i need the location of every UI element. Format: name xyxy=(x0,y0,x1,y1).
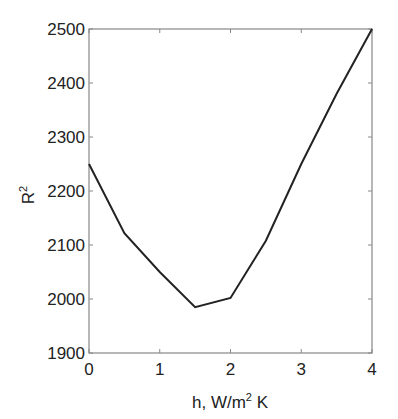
y-tick-label: 2000 xyxy=(47,290,85,309)
y-tick-label: 2300 xyxy=(47,128,85,147)
y-axis-label: R2 xyxy=(17,186,38,204)
x-tick-label: 3 xyxy=(297,360,306,379)
y-tick-label: 2100 xyxy=(47,236,85,255)
y-tick-label: 2500 xyxy=(47,20,85,39)
x-tick-label: 1 xyxy=(155,360,164,379)
x-axis-label: h, W/m2 K xyxy=(192,391,269,412)
x-tick-labels: 01234 xyxy=(84,360,376,379)
y-tick-labels: 1900200021002200230024002500 xyxy=(47,20,85,363)
x-tick-label: 2 xyxy=(226,360,235,379)
y-tick-label: 2200 xyxy=(47,182,85,201)
data-line xyxy=(89,29,372,307)
x-tick-label: 4 xyxy=(367,360,376,379)
plot-axes xyxy=(89,29,372,353)
y-tick-label: 1900 xyxy=(47,344,85,363)
y-tick-label: 2400 xyxy=(47,74,85,93)
x-tick-label: 0 xyxy=(84,360,93,379)
line-chart: 01234 1900200021002200230024002500 h, W/… xyxy=(0,0,398,419)
